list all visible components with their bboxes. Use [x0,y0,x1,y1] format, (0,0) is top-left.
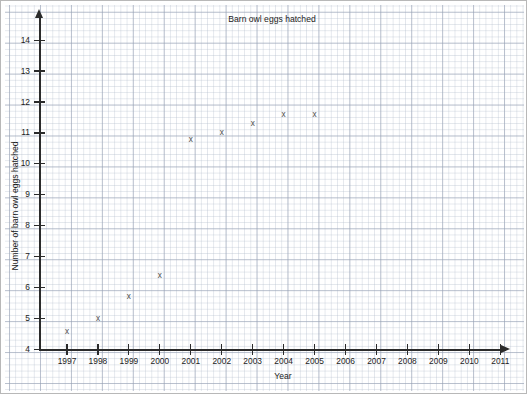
y-tick-label: 11 [6,128,30,137]
x-tick-mark [283,344,284,355]
x-tick-label: 2009 [421,357,455,366]
data-point-2001: x [186,135,195,144]
x-tick-label: 2007 [360,357,394,366]
x-tick-label: 2004 [267,357,301,366]
y-tick-label: 12 [6,98,30,107]
y-tick-mark [34,101,45,102]
x-tick-mark [469,344,470,355]
y-tick-label: 7 [6,252,30,261]
y-tick-label: 10 [6,159,30,168]
x-tick-label: 1997 [50,357,84,366]
x-tick-mark [128,344,129,355]
y-tick-mark [34,349,45,350]
y-tick-label: 8 [6,221,30,230]
x-tick-label: 1999 [112,357,146,366]
x-tick-label: 2005 [298,357,332,366]
data-point-2005: x [310,110,319,119]
x-tick-mark [66,344,67,355]
x-tick-mark [190,344,191,355]
x-tick-label: 2006 [329,357,363,366]
x-tick-mark [314,344,315,355]
data-point-2002: x [217,128,226,137]
data-point-2003: x [248,119,257,128]
y-axis-line [39,15,41,350]
y-tick-mark [34,163,45,164]
data-point-1999: x [124,292,133,301]
x-tick-mark [376,344,377,355]
x-tick-mark [221,344,222,355]
y-tick-mark [34,70,45,71]
y-tick-mark [34,40,45,41]
x-tick-mark [345,344,346,355]
y-tick-mark [34,256,45,257]
x-tick-label: 2008 [390,357,424,366]
x-tick-mark [159,344,160,355]
x-tick-label: 2003 [236,357,270,366]
x-axis-title: Year [253,371,313,381]
y-tick-label: 13 [6,67,30,76]
x-axis-line [39,349,506,351]
y-tick-mark [34,287,45,288]
data-point-2004: x [279,110,288,119]
y-tick-label: 4 [6,345,30,354]
data-point-1998: x [93,314,102,323]
chart-screenshot: Barn owl eggs hatched Number of barn owl… [0,0,527,394]
x-tick-mark [97,344,98,355]
x-tick-label: 2001 [174,357,208,366]
x-tick-label: 2010 [452,357,486,366]
y-tick-mark [34,132,45,133]
x-tick-mark [407,344,408,355]
x-tick-label: 2011 [483,357,517,366]
x-tick-label: 1998 [81,357,115,366]
y-axis-arrow-icon [35,9,43,18]
plot-area: Barn owl eggs hatched Number of barn owl… [1,1,527,394]
x-tick-label: 2000 [143,357,177,366]
y-tick-mark [34,318,45,319]
y-tick-label: 6 [6,283,30,292]
y-tick-mark [34,225,45,226]
y-tick-label: 14 [6,36,30,45]
data-point-1997: x [63,327,72,336]
chart-title: Barn owl eggs hatched [197,14,347,24]
y-tick-label: 5 [6,314,30,323]
data-point-2000: x [155,271,164,280]
y-axis-title: Number of barn owl eggs hatched [10,121,20,291]
y-tick-mark [34,194,45,195]
y-tick-label: 9 [6,190,30,199]
x-axis-arrow-icon [501,345,510,353]
x-tick-mark [438,344,439,355]
x-tick-mark [500,344,501,355]
x-tick-label: 2002 [205,357,239,366]
x-tick-mark [252,344,253,355]
